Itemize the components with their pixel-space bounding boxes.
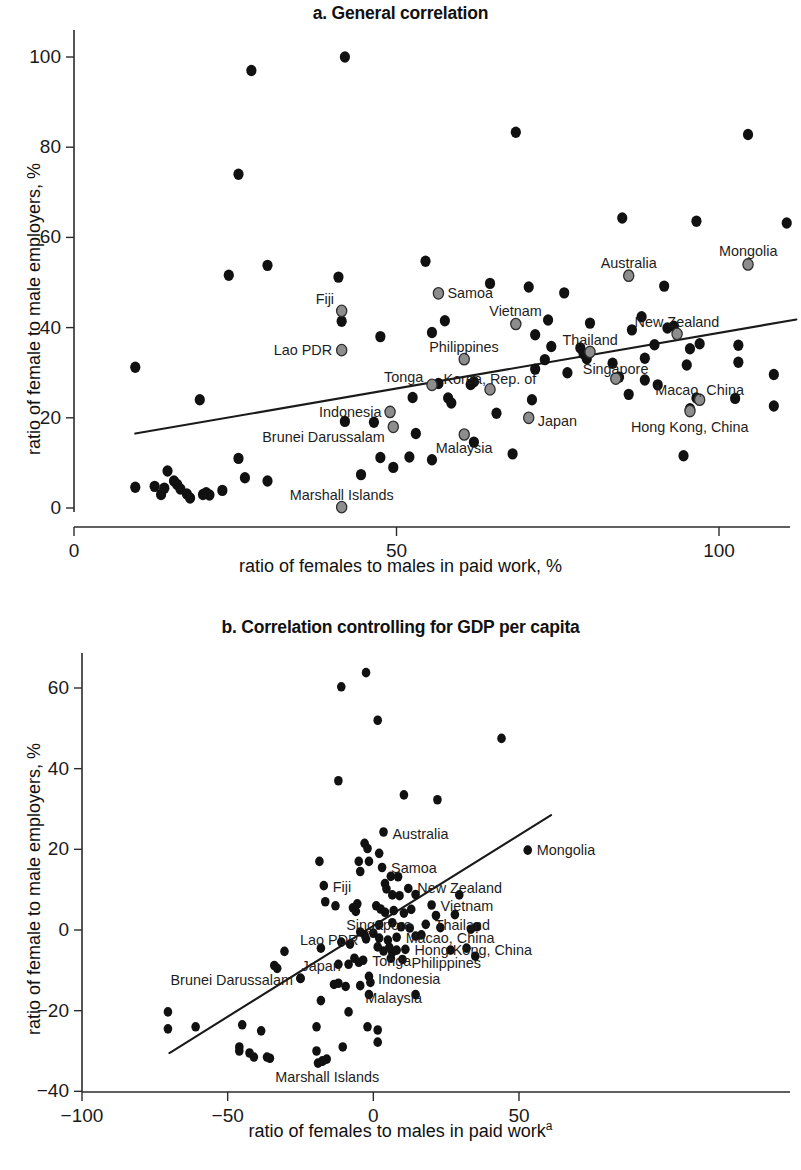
- point-label: Malaysia: [365, 991, 422, 1005]
- data-point-highlighted: [362, 934, 371, 944]
- data-point: [769, 369, 779, 380]
- point-label: Indonesia: [319, 405, 381, 419]
- point-label: Philippines: [411, 956, 481, 970]
- data-point: [353, 899, 362, 909]
- point-label: Australia: [601, 256, 657, 270]
- data-point-highlighted: [459, 429, 469, 440]
- point-label: Brunei Darussalam: [171, 973, 293, 987]
- point-label: Lao PDR: [274, 343, 332, 357]
- data-point: [678, 450, 688, 461]
- data-point: [191, 1022, 200, 1032]
- panel-b-x-axis-title-text: ratio of females to males in paid work: [249, 1121, 546, 1141]
- data-point: [238, 1020, 247, 1030]
- data-point-highlighted: [624, 270, 634, 281]
- point-label: Fiji: [316, 292, 334, 306]
- figure-container: a. General correlation 02040608010005010…: [0, 0, 801, 1170]
- data-point-highlighted: [459, 353, 469, 364]
- point-label: Vietnam: [489, 304, 542, 318]
- data-point: [381, 907, 390, 917]
- data-point: [356, 867, 365, 877]
- data-point: [250, 1052, 259, 1062]
- data-point: [440, 315, 450, 326]
- data-point: [317, 996, 326, 1006]
- panel-b-gdp-controlled-correlation: b. Correlation controlling for GDP per c…: [0, 595, 801, 1170]
- point-label: Mongolia: [537, 843, 595, 857]
- data-point-highlighted: [296, 974, 305, 984]
- data-point: [363, 844, 372, 854]
- data-point: [150, 481, 160, 492]
- data-point: [388, 890, 397, 900]
- data-point: [204, 489, 214, 500]
- point-label: Indonesia: [378, 972, 440, 986]
- data-point: [334, 776, 343, 786]
- data-point: [246, 65, 256, 76]
- data-point: [354, 857, 363, 867]
- data-point-highlighted: [404, 884, 413, 894]
- data-point: [562, 367, 572, 378]
- data-point: [262, 260, 272, 271]
- data-point: [375, 452, 385, 463]
- data-point: [130, 362, 140, 373]
- data-point: [217, 485, 227, 496]
- data-point: [130, 482, 140, 493]
- point-label: Australia: [393, 827, 449, 841]
- data-point-highlighted: [585, 346, 595, 357]
- data-point-highlighted: [672, 328, 682, 339]
- data-point: [446, 397, 456, 408]
- panel-a-general-correlation: a. General correlation 02040608010005010…: [0, 0, 801, 595]
- data-point: [164, 1007, 173, 1017]
- data-point: [769, 400, 779, 411]
- data-point: [408, 392, 418, 403]
- data-point: [491, 408, 501, 419]
- data-point: [733, 339, 743, 350]
- data-point-highlighted: [379, 827, 388, 837]
- data-point: [527, 394, 537, 405]
- data-point-highlighted: [378, 863, 387, 873]
- data-point: [257, 1026, 266, 1036]
- data-point: [321, 897, 330, 907]
- data-point: [427, 327, 437, 338]
- point-label: New Zealand: [635, 315, 720, 329]
- data-point: [356, 469, 366, 480]
- data-point: [543, 314, 553, 325]
- data-point-highlighted: [523, 845, 532, 855]
- data-point: [363, 1022, 372, 1032]
- point-label: Singapore: [346, 918, 412, 932]
- data-point-highlighted: [318, 1056, 327, 1066]
- data-point-highlighted: [685, 405, 695, 416]
- panel-b-y-axis-title: ratio of female to male employers, %: [24, 743, 45, 1035]
- data-point: [331, 901, 340, 911]
- point-label: Lao PDR: [300, 933, 358, 947]
- data-point: [164, 1024, 173, 1034]
- point-label: Brunei Darussalam: [262, 430, 384, 444]
- data-point: [341, 982, 350, 992]
- data-point: [365, 857, 374, 867]
- data-point-highlighted: [524, 412, 534, 423]
- point-label: Fiji: [333, 880, 351, 894]
- point-label: Philippines: [429, 340, 499, 354]
- panel-a-plot: 020406080100050100: [0, 0, 801, 560]
- data-point: [585, 317, 595, 328]
- data-point: [224, 270, 234, 281]
- panel-b-x-axis-footnote-marker: a: [546, 1119, 553, 1133]
- y-tick-label: 100: [29, 46, 61, 67]
- data-point: [433, 795, 442, 805]
- data-point: [400, 790, 409, 800]
- data-point: [743, 129, 753, 140]
- y-tick-label: 0: [50, 497, 61, 518]
- data-point-highlighted: [356, 981, 365, 991]
- point-label: Marshall Islands: [290, 488, 394, 502]
- point-label: Samoa: [447, 286, 493, 300]
- data-point: [266, 1053, 275, 1063]
- point-label: Japan: [302, 959, 341, 973]
- y-tick-label: −40: [37, 1080, 69, 1101]
- data-point: [375, 933, 384, 943]
- y-tick-label: 20: [48, 838, 69, 859]
- point-label: Korea, Rep. of: [444, 372, 537, 386]
- data-point: [195, 394, 205, 405]
- data-point: [233, 169, 243, 180]
- data-point: [162, 465, 172, 476]
- data-point: [691, 215, 701, 226]
- data-point: [624, 389, 634, 400]
- y-tick-label: 0: [58, 919, 69, 940]
